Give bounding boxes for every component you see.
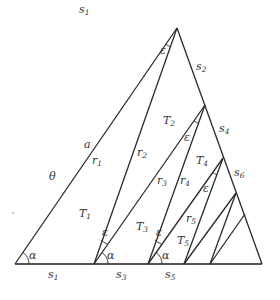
label-T1: T1 xyxy=(79,207,91,221)
label-epsilon-b2: ε xyxy=(184,131,190,144)
label-r5: r5 xyxy=(186,212,196,226)
label-r4: r4 xyxy=(180,174,190,188)
label-a: a xyxy=(84,138,91,151)
label-r2: r2 xyxy=(137,146,147,160)
label-epsilon-b4: ε xyxy=(203,182,209,195)
label-s1-top: s1 xyxy=(79,3,89,17)
label-epsilon-a3: ε xyxy=(156,226,162,239)
segment-7 xyxy=(184,193,236,264)
segment-8 xyxy=(210,193,236,264)
label-alpha-2: α xyxy=(107,249,115,262)
triangle-diagram: s1 s2 s4 s6 s1 s3 s5 a θ r1 r2 r3 r4 r5 … xyxy=(0,0,280,300)
label-r3: r3 xyxy=(157,174,167,188)
label-epsilon-a1: ε xyxy=(102,226,108,239)
label-r1: r1 xyxy=(92,154,102,168)
label-epsilon-apex: ε xyxy=(160,44,166,57)
label-s1-bottom: s1 xyxy=(48,268,58,282)
epsilon-arc-b4 xyxy=(212,173,217,176)
label-s4: s4 xyxy=(219,122,230,136)
label-s3: s3 xyxy=(116,268,127,282)
label-T3: T3 xyxy=(136,220,148,234)
segment-6 xyxy=(184,158,223,264)
label-T4: T4 xyxy=(196,154,208,168)
label-T5: T5 xyxy=(177,234,189,248)
label-s2: s2 xyxy=(196,60,207,74)
label-alpha-1: α xyxy=(29,249,37,262)
label-s6: s6 xyxy=(234,166,245,180)
stray-dot xyxy=(12,212,14,214)
left-side-edge xyxy=(15,28,177,264)
label-alpha-3: α xyxy=(162,249,170,262)
epsilon-arc-apex xyxy=(166,45,171,48)
label-T2: T2 xyxy=(163,114,175,128)
label-theta: θ xyxy=(49,170,56,183)
label-s5: s5 xyxy=(165,268,176,282)
